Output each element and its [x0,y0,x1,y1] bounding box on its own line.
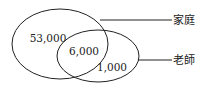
intersection-value: 6,000 [69,45,99,57]
family-only-value: 53,000 [30,32,67,44]
teacher-only-value: 1,000 [97,61,127,73]
family-label: 家庭 [173,13,195,27]
teacher-label: 老師 [173,54,195,67]
venn-diagram: 53,000 6,000 1,000 家庭 老師 [0,0,207,85]
set-family-ellipse [12,9,108,79]
